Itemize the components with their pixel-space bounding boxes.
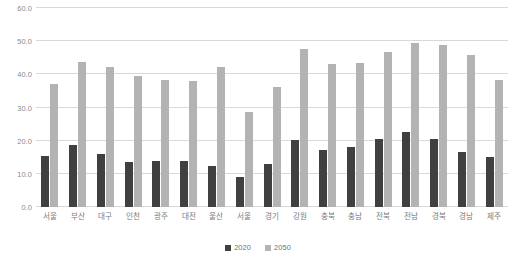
bar-2050-전북[interactable] xyxy=(384,52,392,207)
x-tick-label: 제주 xyxy=(480,210,508,236)
bar-2050-경기[interactable] xyxy=(273,87,281,207)
bar-group xyxy=(92,8,120,207)
bar-group xyxy=(64,8,92,207)
bar-2050-경남[interactable] xyxy=(467,55,475,207)
x-tick-label: 전북 xyxy=(369,210,397,236)
bar-group xyxy=(230,8,258,207)
bar-group xyxy=(119,8,147,207)
legend-label: 2050 xyxy=(274,243,291,252)
bar-2020-경북[interactable] xyxy=(430,139,438,207)
bar-2050-강원[interactable] xyxy=(300,49,308,207)
bar-2050-울산[interactable] xyxy=(217,67,225,207)
y-axis: 0.010.020.030.040.050.060.0 xyxy=(0,8,32,207)
bar-group xyxy=(147,8,175,207)
x-tick-label: 강원 xyxy=(286,210,314,236)
bar-2020-서울[interactable] xyxy=(41,156,49,207)
x-tick-label: 충북 xyxy=(314,210,342,236)
x-tick-label: 경기 xyxy=(258,210,286,236)
bar-2050-충북[interactable] xyxy=(328,64,336,207)
bar-group xyxy=(203,8,231,207)
bar-2020-울산[interactable] xyxy=(208,166,216,207)
bar-group xyxy=(397,8,425,207)
legend-item-2050[interactable]: 2050 xyxy=(265,243,291,252)
x-tick-label: 울산 xyxy=(203,210,231,236)
x-tick-label: 대전 xyxy=(175,210,203,236)
bar-group xyxy=(425,8,453,207)
bar-2020-부산[interactable] xyxy=(69,145,77,207)
bar-group xyxy=(36,8,64,207)
y-tick-label: 10.0 xyxy=(0,169,32,178)
x-tick-label: 광주 xyxy=(147,210,175,236)
legend-swatch-icon xyxy=(265,245,271,251)
y-tick-label: 30.0 xyxy=(0,103,32,112)
bar-group xyxy=(369,8,397,207)
x-tick-label: 대구 xyxy=(92,210,120,236)
bar-2020-충북[interactable] xyxy=(319,150,327,207)
bar-2020-광주[interactable] xyxy=(152,161,160,207)
bar-2050-충남[interactable] xyxy=(356,63,364,207)
legend-swatch-icon xyxy=(225,245,231,251)
bar-group xyxy=(452,8,480,207)
x-tick-label: 서울 xyxy=(230,210,258,236)
x-tick-label: 전남 xyxy=(397,210,425,236)
x-tick-label: 서울 xyxy=(36,210,64,236)
bar-2050-대구[interactable] xyxy=(106,67,114,207)
bar-chart: 0.010.020.030.040.050.060.0 서울부산대구인천광주대전… xyxy=(0,0,516,263)
y-tick-label: 0.0 xyxy=(0,203,32,212)
legend-label: 2020 xyxy=(234,243,251,252)
bar-2050-인천[interactable] xyxy=(134,76,142,207)
bar-2050-서울[interactable] xyxy=(245,112,253,207)
x-axis: 서울부산대구인천광주대전울산서울경기강원충북충남전북전남경북경남제주 xyxy=(36,210,508,236)
bar-group xyxy=(175,8,203,207)
y-tick-label: 20.0 xyxy=(0,136,32,145)
bar-2050-서울[interactable] xyxy=(50,84,58,207)
bar-2020-전남[interactable] xyxy=(402,132,410,207)
bar-group xyxy=(341,8,369,207)
bar-2050-제주[interactable] xyxy=(495,80,503,207)
bar-2020-대전[interactable] xyxy=(180,161,188,207)
x-tick-label: 충남 xyxy=(341,210,369,236)
legend-item-2020[interactable]: 2020 xyxy=(225,243,251,252)
x-tick-label: 경북 xyxy=(425,210,453,236)
bar-group xyxy=(258,8,286,207)
bar-2020-강원[interactable] xyxy=(291,140,299,207)
x-tick-label: 경남 xyxy=(452,210,480,236)
bar-2020-인천[interactable] xyxy=(125,162,133,207)
x-tick-label: 부산 xyxy=(64,210,92,236)
bar-2050-전남[interactable] xyxy=(411,43,419,207)
bar-2050-경북[interactable] xyxy=(439,45,447,207)
bar-2050-부산[interactable] xyxy=(78,62,86,207)
y-tick-label: 60.0 xyxy=(0,4,32,13)
x-tick-label: 인천 xyxy=(119,210,147,236)
bar-2050-광주[interactable] xyxy=(161,80,169,207)
y-tick-label: 40.0 xyxy=(0,70,32,79)
bars-layer xyxy=(36,8,508,207)
bar-2020-제주[interactable] xyxy=(486,157,494,207)
y-tick-label: 50.0 xyxy=(0,37,32,46)
bar-2020-경남[interactable] xyxy=(458,152,466,207)
bar-2020-경기[interactable] xyxy=(264,164,272,207)
chart-legend: 20202050 xyxy=(0,243,516,252)
bar-2020-전북[interactable] xyxy=(375,139,383,207)
bar-group xyxy=(286,8,314,207)
bar-group xyxy=(480,8,508,207)
bar-2020-대구[interactable] xyxy=(97,154,105,207)
plot-area xyxy=(36,8,508,207)
bar-2050-대전[interactable] xyxy=(189,81,197,207)
bar-2020-충남[interactable] xyxy=(347,147,355,207)
bar-group xyxy=(314,8,342,207)
bar-2020-서울[interactable] xyxy=(236,177,244,208)
